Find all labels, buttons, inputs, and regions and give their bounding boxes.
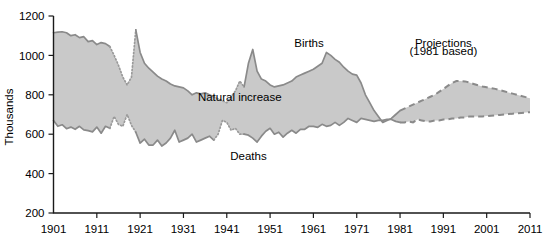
x-axis-tick-label: 1921 [127, 223, 153, 235]
y-axis-tick-label: 600 [25, 128, 44, 140]
births-deaths-natural-increase-chart: 2004006008001000120019011911192119311941… [0, 0, 548, 251]
x-axis-tick-label: 1961 [301, 223, 327, 235]
projections-label-line2: (1981 based) [409, 45, 477, 57]
x-axis-tick-label: 1931 [171, 223, 197, 235]
y-axis-tick-label: 200 [25, 207, 44, 219]
x-axis-tick-label: 2001 [474, 223, 500, 235]
y-axis-title: Thousands [3, 88, 15, 145]
x-axis-tick-label: 1971 [344, 223, 370, 235]
x-axis-tick-label: 1991 [431, 223, 457, 235]
x-axis-tick-label: 1941 [214, 223, 240, 235]
chart-svg: 2004006008001000120019011911192119311941… [0, 0, 548, 251]
deaths-label: Deaths [230, 150, 267, 162]
y-axis-tick-label: 1000 [19, 50, 45, 62]
x-axis-tick-label: 1981 [387, 223, 413, 235]
y-axis-tick-label: 1200 [19, 10, 45, 22]
births-label: Births [294, 37, 324, 49]
x-axis-tick-label: 1951 [257, 223, 283, 235]
x-axis-tick-label: 2011 [518, 223, 543, 235]
natural-increase-label: Natural increase [198, 91, 282, 103]
y-axis-tick-label: 800 [25, 89, 44, 101]
x-axis-tick-label: 1901 [41, 223, 67, 235]
y-axis-tick-label: 400 [25, 168, 44, 180]
x-axis-tick-label: 1911 [84, 223, 109, 235]
